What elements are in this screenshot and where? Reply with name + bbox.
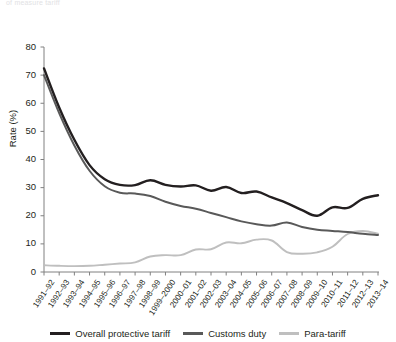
figure: of measure tariff Rate (%) 0102030405060… (0, 0, 396, 342)
legend-para-tariff[interactable]: Para-tariff (279, 328, 346, 339)
legend-swatch-icon (279, 332, 299, 335)
chart-plot-area: Rate (%) 01020304050607080 1991–921992–9… (0, 0, 396, 342)
legend-label: Para-tariff (304, 328, 346, 339)
legend-label: Overall protective tariff (75, 328, 170, 339)
series-line-para-tariff (44, 231, 378, 266)
legend-swatch-icon (183, 332, 203, 335)
legend-customs-duty[interactable]: Customs duty (183, 328, 266, 339)
line-chart-svg (0, 0, 396, 342)
legend-label: Customs duty (208, 328, 266, 339)
legend-swatch-icon (50, 332, 70, 335)
chart-legend: Overall protective tariffCustoms dutyPar… (0, 328, 396, 339)
legend-overall-protective-tariff[interactable]: Overall protective tariff (50, 328, 170, 339)
series-line-overall-protective-tariff (44, 68, 378, 215)
